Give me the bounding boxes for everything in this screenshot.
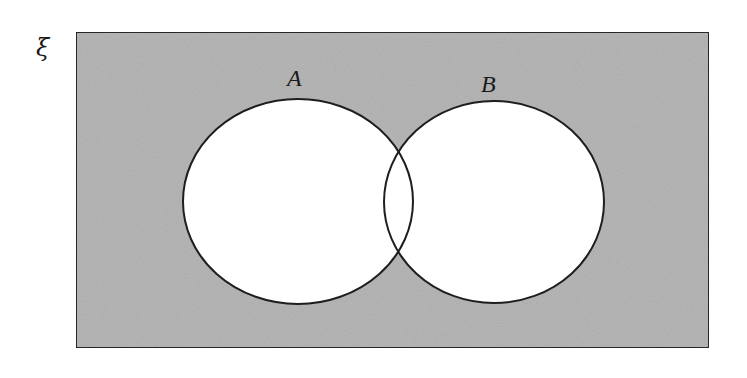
set-a-label: A: [285, 65, 302, 91]
set-a-circle: [183, 99, 413, 304]
set-b-label: B: [481, 71, 496, 97]
set-b-circle: [384, 101, 604, 303]
venn-diagram: ξ A B: [0, 0, 747, 378]
universal-set-label: ξ: [36, 34, 51, 62]
